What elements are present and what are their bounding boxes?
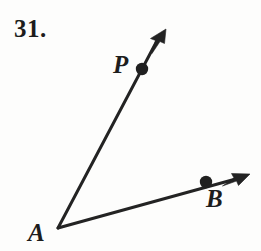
ray-ap-arrowhead-icon bbox=[151, 29, 167, 54]
point-label-a: A bbox=[28, 220, 45, 245]
ray-ab-arrowhead-icon bbox=[223, 174, 251, 187]
point-label-b: B bbox=[206, 186, 223, 211]
exercise-number: 31. bbox=[14, 16, 47, 41]
angle-figure: 31. P B A bbox=[0, 0, 261, 251]
point-p-dot bbox=[136, 63, 148, 75]
point-label-p: P bbox=[113, 52, 128, 77]
